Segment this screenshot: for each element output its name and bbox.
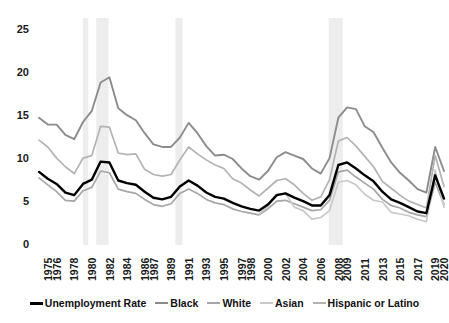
x-tick-1978: 1978 (69, 258, 80, 281)
x-tick-1989: 1989 (166, 258, 177, 281)
legend-swatch-icon (155, 302, 168, 304)
x-tick-1980: 1980 (87, 258, 98, 281)
y-tick-25: 25 (3, 24, 29, 35)
x-tick-2013: 2013 (378, 258, 389, 281)
x-tick-1984: 1984 (122, 258, 133, 281)
y-tick-0: 0 (3, 239, 29, 250)
legend-item-asian[interactable]: Asian (260, 297, 304, 309)
x-tick-2002: 2002 (281, 258, 292, 281)
legend-item-hispanic-or-latino[interactable]: Hispanic or Latino (313, 297, 420, 309)
recession-band (96, 18, 108, 245)
legend-swatch-icon (313, 302, 326, 304)
y-tick-5: 5 (3, 196, 29, 207)
x-tick-2000: 2000 (263, 258, 274, 281)
x-tick-2015: 2015 (395, 258, 406, 281)
x-tick-1995: 1995 (219, 258, 230, 281)
x-tick-1993: 1993 (201, 258, 212, 281)
x-tick-2009: 2009 (342, 258, 353, 281)
legend-item-white[interactable]: White (207, 297, 251, 309)
chart-legend: Unemployment RateBlackWhiteAsianHispanic… (0, 293, 449, 313)
x-tick-2020: 2020 (439, 258, 449, 281)
x-tick-2006: 2006 (316, 258, 327, 281)
legend-label: White (222, 297, 251, 309)
unemployment-rate-line-chart: 0510152025 19751976197819801982198419861… (0, 0, 449, 323)
y-tick-15: 15 (3, 110, 29, 121)
legend-swatch-icon (30, 302, 43, 305)
x-tick-1991: 1991 (184, 258, 195, 281)
legend-swatch-icon (260, 302, 273, 304)
x-tick-1982: 1982 (105, 258, 116, 281)
y-tick-20: 20 (3, 67, 29, 78)
legend-item-black[interactable]: Black (155, 297, 198, 309)
legend-swatch-icon (207, 302, 220, 304)
x-tick-2004: 2004 (298, 258, 309, 281)
y-tick-10: 10 (3, 153, 29, 164)
x-tick-1976: 1976 (52, 258, 63, 281)
x-tick-1998: 1998 (246, 258, 257, 281)
recession-band (175, 18, 182, 245)
recession-band (83, 18, 88, 245)
x-tick-1987: 1987 (149, 258, 160, 281)
legend-label: Hispanic or Latino (328, 297, 420, 309)
legend-label: Black (170, 297, 198, 309)
legend-label: Unemployment Rate (45, 297, 147, 309)
x-tick-2017: 2017 (413, 258, 424, 281)
legend-item-unemployment-rate[interactable]: Unemployment Rate (30, 297, 147, 309)
legend-label: Asian (275, 297, 304, 309)
x-tick-2011: 2011 (360, 258, 371, 281)
